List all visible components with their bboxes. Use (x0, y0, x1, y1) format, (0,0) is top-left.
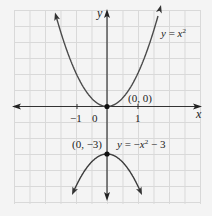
lower-equation-label: y = −x2 − 3 (116, 138, 166, 150)
vertex-label: (0, −3) (72, 138, 102, 151)
tick-label-1: 1 (135, 112, 141, 124)
origin-label: (0, 0) (128, 92, 152, 105)
vertex-point (104, 151, 109, 156)
tick-label-neg1: −1 (70, 112, 82, 124)
tick-label-0: 0 (92, 112, 98, 124)
origin-point (104, 104, 109, 109)
x-axis-label: x (195, 107, 202, 121)
graph-figure: y x −1 0 1 (0, 0) (0, −3) y = x2 y = −x2… (0, 0, 212, 216)
upper-equation-label: y = x2 (160, 27, 187, 39)
y-axis-label: y (96, 6, 103, 20)
